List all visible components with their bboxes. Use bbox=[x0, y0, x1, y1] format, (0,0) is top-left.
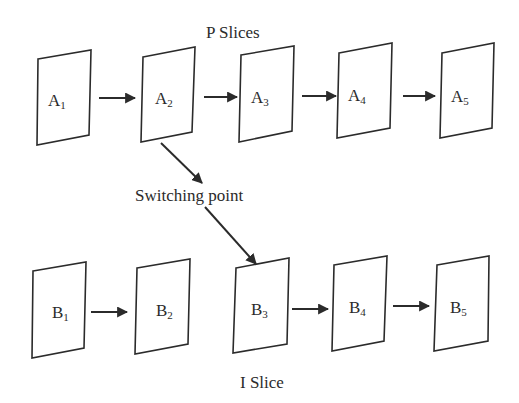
p-slice-frame-a2: A2 bbox=[141, 47, 195, 142]
i-slice-label: I Slice bbox=[240, 373, 284, 392]
p-slice-frame-a3: A3 bbox=[239, 46, 294, 142]
frame-shape bbox=[440, 43, 494, 138]
p-slice-frame-a1: A1 bbox=[37, 50, 91, 145]
p-slices-row: A1A2A3A4A5 bbox=[37, 43, 494, 145]
video-slice-switching-diagram: P Slices Switching point I Slice A1A2A3A… bbox=[0, 0, 519, 403]
frame-shape bbox=[37, 50, 91, 145]
i-slice-frame-b5: B5 bbox=[434, 256, 489, 351]
i-slice-frame-b1: B1 bbox=[32, 262, 86, 358]
p-slices-label: P Slices bbox=[206, 23, 260, 42]
switching-point-label: Switching point bbox=[135, 186, 243, 205]
p-slice-frame-a5: A5 bbox=[440, 43, 494, 138]
switch-arrow-icon bbox=[161, 143, 202, 183]
i-slice-frame-b4: B4 bbox=[332, 256, 387, 351]
frame-shape bbox=[434, 256, 489, 351]
p-slice-frame-a4: A4 bbox=[337, 43, 392, 138]
switch-arrow-icon bbox=[205, 207, 256, 264]
i-slice-frame-b3: B3 bbox=[233, 258, 289, 353]
i-slice-frame-b2: B2 bbox=[135, 259, 190, 354]
frame-shape bbox=[141, 47, 195, 142]
frame-shape bbox=[337, 43, 392, 138]
frame-shape bbox=[239, 46, 294, 142]
